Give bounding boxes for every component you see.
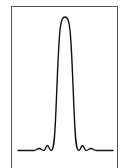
plot-area — [0, 0, 123, 168]
intensity-curve — [18, 17, 113, 151]
